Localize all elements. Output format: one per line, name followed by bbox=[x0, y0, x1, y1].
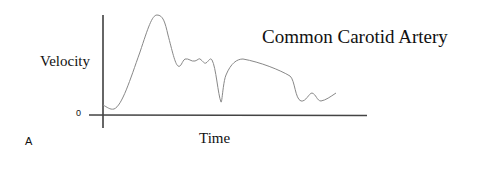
y-zero-tick: 0 bbox=[76, 108, 81, 118]
x-axis-label: Time bbox=[199, 130, 230, 147]
y-axis-label: Velocity bbox=[40, 53, 90, 70]
figure: Common Carotid Artery Velocity Time 0 A bbox=[0, 0, 492, 175]
panel-label: A bbox=[25, 135, 32, 147]
chart-title: Common Carotid Artery bbox=[262, 26, 448, 48]
x-axis bbox=[89, 115, 367, 116]
